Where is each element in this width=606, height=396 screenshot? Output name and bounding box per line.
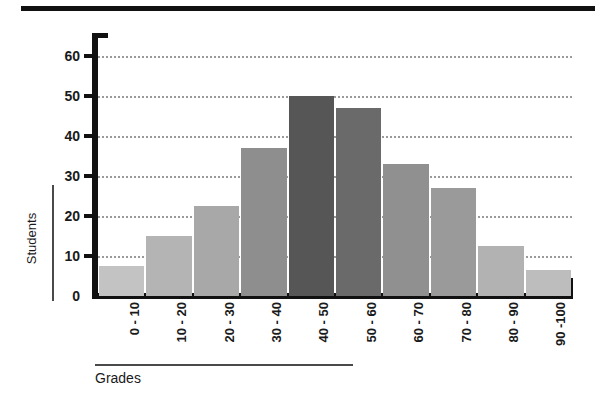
bar: [526, 270, 571, 296]
gridline: [98, 176, 572, 178]
y-axis-tick: [84, 214, 98, 218]
histogram-figure: 0102030405060 0 - 1010 - 2020 - 3030 - 4…: [0, 0, 606, 396]
x-axis-tick-label: 60 - 70: [412, 302, 425, 382]
bar: [383, 164, 428, 296]
x-axis-title-rule: [95, 364, 353, 366]
y-axis-tick: [84, 134, 98, 138]
y-axis-title: Students: [25, 194, 38, 284]
y-axis-tick: [84, 54, 98, 58]
bar: [289, 96, 334, 296]
bar: [194, 206, 239, 296]
y-axis-tick: [84, 174, 98, 178]
gridline: [98, 216, 572, 218]
y-axis-tick-label: 60: [46, 49, 80, 63]
gridline: [98, 56, 572, 58]
y-axis-tick: [84, 254, 98, 258]
bar: [431, 188, 476, 296]
y-axis-tick: [84, 94, 98, 98]
x-axis-tick-label: 50 - 60: [365, 302, 378, 382]
gridline: [98, 96, 572, 98]
bar: [146, 236, 191, 296]
bar: [99, 266, 144, 296]
gridline: [98, 136, 572, 138]
x-axis-tick-label: 30 - 40: [270, 302, 283, 382]
x-axis-title: Grades: [95, 371, 141, 385]
x-axis-tick-label: 10 - 20: [175, 302, 188, 382]
bar: [478, 246, 523, 296]
x-axis-tick-label: 40 - 50: [317, 302, 330, 382]
y-axis-tick-label: 50: [46, 89, 80, 103]
x-axis-tick-label: 80 - 90: [507, 302, 520, 382]
y-axis-tick-label: 40: [46, 129, 80, 143]
bar: [241, 148, 286, 296]
y-axis-title-rule: [52, 185, 54, 301]
y-axis-tick-labels: 0102030405060: [42, 0, 80, 396]
x-axis-tick-label: 90 -100: [554, 302, 567, 382]
y-axis-tick-label: 30: [46, 169, 80, 183]
x-axis-tick-label: 70 - 80: [460, 302, 473, 382]
x-axis-tick-label: 20 - 30: [223, 302, 236, 382]
plot-area: [98, 36, 572, 296]
bar: [336, 108, 381, 296]
